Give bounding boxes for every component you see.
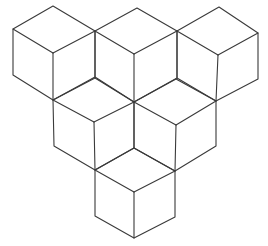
cube-row2-right [134,79,216,171]
cube-edge [218,33,258,55]
cube-row2-left [53,78,134,170]
cube-edge [95,170,134,192]
cube-edge [53,100,94,122]
cube-row3-bottom [95,148,175,238]
cube-row1-right [177,7,258,101]
isometric-cubes-diagram [0,0,268,246]
cube-edge [134,171,175,192]
cube-edge [175,125,176,171]
cube-edge [134,31,177,54]
cube-edge [134,102,176,125]
cube-edge [177,31,218,55]
cube-row1-middle [95,8,177,102]
cube-edge [13,29,53,53]
cube-row1-left [13,6,95,100]
cube-edge [94,122,95,170]
cube-outline [95,148,175,238]
cube-outline [95,8,177,102]
cube-edge [216,55,218,101]
cube-edge [94,102,134,122]
cube-edge [176,101,216,125]
cube-edge [53,31,95,53]
cube-edge [95,31,134,54]
cubes-drawing [0,0,268,246]
cube-outline [177,7,258,101]
